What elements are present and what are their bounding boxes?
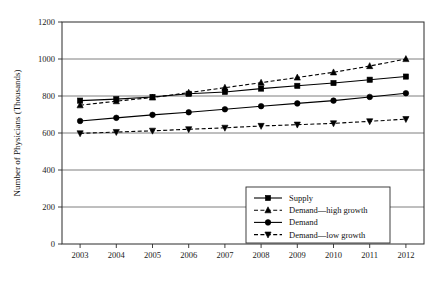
data-point-marker: [222, 107, 228, 113]
legend-sample-marker-0: [265, 195, 270, 200]
data-point-marker: [258, 103, 264, 109]
x-tick-label: 2010: [325, 250, 342, 260]
chart-canvas: Number of Physicians (Thousands) 0200400…: [0, 0, 442, 291]
data-point-marker: [331, 98, 337, 104]
legend-label-3[interactable]: Demand—low growth: [289, 230, 366, 240]
x-tick-label: 2009: [289, 250, 306, 260]
data-point-marker: [295, 101, 301, 107]
legend-sample-marker-2: [265, 220, 271, 226]
y-tick-label: 1000: [38, 54, 55, 64]
x-tick-label: 2005: [144, 250, 161, 260]
chart-background: [0, 0, 442, 291]
chart-legend[interactable]: SupplyDemand—high growthDemandDemand—low…: [246, 187, 390, 243]
y-axis-title-group: Number of Physicians (Thousands): [12, 69, 22, 196]
x-tick-label: 2006: [180, 250, 197, 260]
data-point-marker: [150, 112, 156, 118]
data-point-marker: [403, 90, 409, 96]
data-point-marker: [331, 80, 336, 85]
x-tick-label: 2012: [397, 250, 414, 260]
data-point-marker: [367, 77, 372, 82]
data-point-marker: [259, 86, 264, 91]
data-point-marker: [295, 83, 300, 88]
data-point-marker: [186, 109, 192, 115]
x-tick-label: 2004: [108, 250, 126, 260]
y-tick-label: 600: [42, 128, 55, 138]
x-tick-label: 2008: [253, 250, 270, 260]
y-tick-label: 200: [42, 202, 55, 212]
data-point-marker: [77, 118, 83, 124]
data-point-marker: [403, 74, 408, 79]
legend-label-1[interactable]: Demand—high growth: [289, 205, 368, 215]
y-tick-label: 400: [42, 165, 55, 175]
x-tick-label: 2007: [216, 250, 233, 260]
y-tick-label: 1200: [38, 17, 55, 27]
y-axis-title: Number of Physicians (Thousands): [12, 69, 22, 196]
physician-supply-demand-chart: Number of Physicians (Thousands) 0200400…: [0, 0, 442, 291]
x-tick-label: 2011: [361, 250, 378, 260]
y-tick-label: 0: [51, 239, 55, 249]
legend-label-0[interactable]: Supply: [289, 193, 314, 203]
data-point-marker: [367, 94, 373, 100]
y-tick-label: 800: [42, 91, 55, 101]
x-tick-label: 2003: [72, 250, 89, 260]
legend-label-2[interactable]: Demand: [289, 217, 319, 227]
data-point-marker: [114, 115, 120, 121]
